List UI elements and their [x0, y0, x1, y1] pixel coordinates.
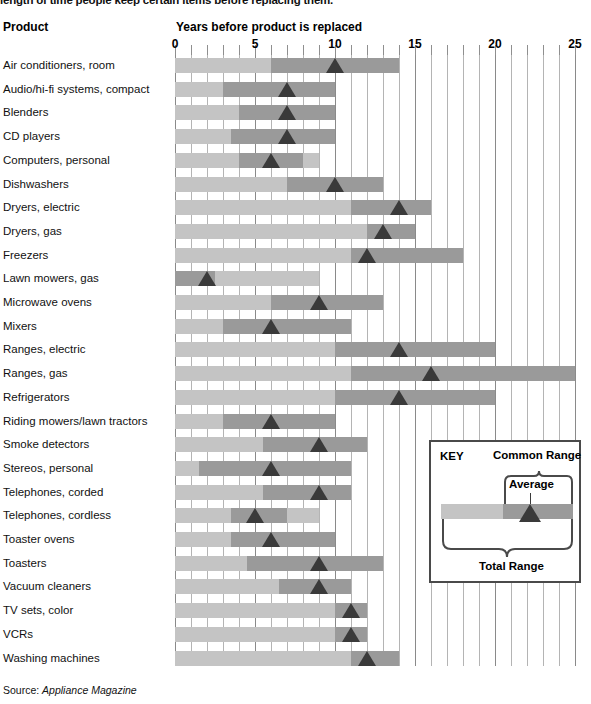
gridline-2 — [207, 55, 208, 666]
axis-tick-18 — [463, 45, 464, 55]
axis-tick-8 — [303, 45, 304, 55]
average-marker-icon — [310, 556, 328, 571]
chart-row — [175, 366, 575, 381]
product-label: Smoke detectors — [3, 438, 89, 450]
source-value: Appliance Magazine — [42, 684, 137, 696]
axis-tick-9 — [319, 45, 320, 55]
average-marker-icon — [390, 342, 408, 357]
gridline-1 — [191, 55, 192, 666]
chart-row — [175, 58, 575, 73]
gridline-8 — [303, 55, 304, 666]
product-label: Computers, personal — [3, 154, 110, 166]
gridline-14 — [399, 55, 400, 666]
axis-tick-6 — [271, 45, 272, 55]
chart-row — [175, 82, 575, 97]
gridline-6 — [271, 55, 272, 666]
average-marker-icon — [326, 177, 344, 192]
chart-row — [175, 224, 575, 239]
gridline-3 — [223, 55, 224, 666]
average-marker-icon — [342, 603, 360, 618]
product-label: Air conditioners, room — [3, 59, 115, 71]
chart-row — [175, 295, 575, 310]
average-marker-icon — [262, 461, 280, 476]
axis-tick-12 — [367, 45, 368, 55]
gridline-5 — [255, 55, 256, 666]
product-label: Telephones, corded — [3, 486, 103, 498]
axis-tick-22 — [527, 45, 528, 55]
average-marker-icon — [310, 437, 328, 452]
axis-tick-7 — [287, 45, 288, 55]
common-range-bar — [223, 319, 351, 334]
product-label: Audio/hi-fi systems, compact — [3, 83, 149, 95]
product-label: Refrigerators — [3, 391, 69, 403]
gridline-7 — [287, 55, 288, 666]
gridline-9 — [319, 55, 320, 666]
common-range-bar — [335, 342, 495, 357]
average-marker-icon — [310, 485, 328, 500]
chart-row — [175, 627, 575, 642]
product-label: Blenders — [3, 106, 48, 118]
product-label: Telephones, cordless — [3, 509, 111, 521]
axis-tick-24 — [559, 45, 560, 55]
product-label: TV sets, color — [3, 604, 73, 616]
gridline-10 — [335, 55, 336, 666]
axis-tick-label-0: 0 — [172, 37, 179, 51]
axis-tick-23 — [543, 45, 544, 55]
gridline-13 — [383, 55, 384, 666]
chart-row — [175, 129, 575, 144]
product-label: Dryers, electric — [3, 201, 80, 213]
average-marker-icon — [262, 153, 280, 168]
chart-row — [175, 105, 575, 120]
product-label: CD players — [3, 130, 60, 142]
average-marker-icon — [358, 651, 376, 666]
common-range-bar — [231, 532, 335, 547]
axis-tick-1 — [191, 45, 192, 55]
gridline-0 — [175, 55, 176, 666]
average-marker-icon — [262, 319, 280, 334]
average-marker-icon — [278, 105, 296, 120]
intro-text: length of time people keep certain items… — [0, 0, 591, 8]
key-common-range-label: Common Range — [493, 449, 581, 461]
axis-tick-3 — [223, 45, 224, 55]
axis-tick-11 — [351, 45, 352, 55]
gridline-4 — [239, 55, 240, 666]
product-label: Stereos, personal — [3, 462, 93, 474]
average-marker-icon — [310, 579, 328, 594]
average-marker-icon — [278, 129, 296, 144]
product-label: VCRs — [3, 628, 33, 640]
product-label: Vacuum cleaners — [3, 580, 91, 592]
chart-row — [175, 200, 575, 215]
product-label: Washing machines — [3, 652, 100, 664]
product-label: Toaster ovens — [3, 533, 75, 545]
axis-tick-4 — [239, 45, 240, 55]
chart-key-box: KEY Common Range Average Total Range — [429, 440, 581, 583]
axis-tick-label-15: 15 — [408, 37, 421, 51]
common-range-bar — [263, 485, 351, 500]
axis-tick-label-25: 25 — [568, 37, 581, 51]
chart-row — [175, 390, 575, 405]
chart-row — [175, 271, 575, 286]
product-label: Toasters — [3, 557, 46, 569]
average-marker-icon — [342, 627, 360, 642]
chart-row — [175, 319, 575, 334]
gridline-11 — [351, 55, 352, 666]
average-marker-icon — [262, 532, 280, 547]
average-marker-icon — [246, 508, 264, 523]
axis-tick-label-5: 5 — [252, 37, 259, 51]
average-marker-icon — [358, 248, 376, 263]
product-label: Freezers — [3, 249, 48, 261]
key-average-label: Average — [509, 478, 554, 490]
chart-row — [175, 342, 575, 357]
axis-title: Years before product is replaced — [176, 20, 362, 34]
average-marker-icon — [262, 414, 280, 429]
axis-tick-13 — [383, 45, 384, 55]
average-marker-icon — [310, 295, 328, 310]
source-label: Source: — [3, 684, 39, 696]
key-total-range-label: Total Range — [479, 560, 544, 572]
average-marker-icon — [390, 390, 408, 405]
axis-tick-17 — [447, 45, 448, 55]
axis-tick-19 — [479, 45, 480, 55]
axis-tick-label-10: 10 — [328, 37, 341, 51]
common-range-bar — [335, 390, 495, 405]
chart-row — [175, 603, 575, 618]
